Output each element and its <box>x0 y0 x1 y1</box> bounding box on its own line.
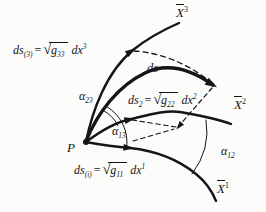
tensor-arc-length-diagram: ds(3)=√g33 dx3 ds2=√g22 dx2 ds(i)=√g11 d… <box>0 0 266 212</box>
x2-base: X <box>234 97 242 112</box>
arrowhead-x2 <box>124 115 136 124</box>
x3-base: X <box>176 5 184 20</box>
x1-superscript: 1 <box>225 181 229 190</box>
eq2-differential-superscript: 2 <box>193 92 197 101</box>
radical-sign: √ <box>103 161 111 177</box>
x2-superscript: 2 <box>242 97 246 106</box>
eq3-lhs: ds <box>13 43 24 57</box>
eq1-differential-superscript: 1 <box>142 162 146 171</box>
x1-base: X <box>217 181 225 196</box>
axis-label-x2: X2 <box>234 98 246 111</box>
angle-arc-alpha12 <box>192 120 207 174</box>
eq2-lhs: ds <box>128 93 139 107</box>
alpha23-subscript: 23 <box>85 96 93 105</box>
dashed-translated-curve <box>134 51 212 83</box>
angle-label-alpha13: α13 <box>112 125 126 140</box>
point-p-label: P <box>67 141 75 154</box>
eq1-lhs-subscript: (i) <box>85 170 92 179</box>
arrowhead-dashed-pointer <box>174 121 184 131</box>
x3-superscript: 3 <box>184 5 188 14</box>
dashed-edge-from-x1 <box>133 129 174 141</box>
alpha12-subscript: 12 <box>227 151 235 160</box>
radical-sign: √ <box>153 91 161 107</box>
alpha13-subscript: 13 <box>118 131 126 140</box>
angle-label-alpha23: α23 <box>79 90 93 105</box>
equation-ds1: ds(i)=√g11 dx1 <box>74 162 145 179</box>
dashed-edge-from-x2 <box>132 120 176 127</box>
ds-curve-label: ds <box>147 62 158 75</box>
eq1-radicand-subscript: 11 <box>116 170 123 179</box>
eq2-radicand-subscript: 22 <box>167 100 175 109</box>
eq3-differential: dx <box>71 43 82 57</box>
radical-sign: √ <box>43 41 51 57</box>
angle-label-alpha12: α12 <box>221 145 235 160</box>
point-p-dot <box>83 139 89 145</box>
eq1-equals: = <box>92 163 103 177</box>
p-text: P <box>67 140 75 155</box>
arrowhead-ds <box>205 78 219 91</box>
eq1-differential: dx <box>130 163 141 177</box>
x3-coordinate-curve <box>86 23 179 142</box>
x2-coordinate-curve <box>86 111 231 142</box>
equation-ds2: ds2=√g22 dx2 <box>128 92 197 109</box>
equation-ds3: ds(3)=√g33 dx3 <box>13 42 87 59</box>
eq2-differential: dx <box>181 93 192 107</box>
ds-text: ds <box>147 61 158 75</box>
eq2-equals: = <box>142 93 153 107</box>
arrowhead-x3 <box>125 46 138 57</box>
eq3-radicand-subscript: 33 <box>57 50 65 59</box>
eq3-differential-superscript: 3 <box>83 42 87 51</box>
axis-label-x3: X3 <box>176 6 188 19</box>
eq3-equals: = <box>32 43 43 57</box>
eq1-lhs: ds <box>74 163 85 177</box>
arrowhead-x1 <box>123 144 134 152</box>
axis-label-x1: X1 <box>217 182 229 195</box>
